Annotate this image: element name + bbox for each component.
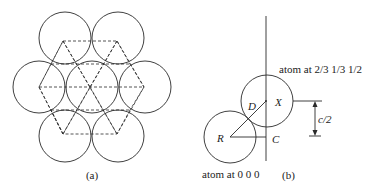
atom-upper-label: atom at 2/3 1/3 1/2: [279, 63, 362, 75]
caption-a: (a): [86, 169, 99, 182]
atom-circle: [39, 12, 91, 64]
arrow-head-up-icon: [313, 101, 318, 107]
point-label-c: C: [272, 133, 280, 145]
figure-a: [13, 12, 171, 162]
arrow-head-down-icon: [313, 130, 318, 136]
atom-lower-label: atom at 0 0 0: [202, 168, 260, 180]
caption-b: (b): [282, 169, 295, 182]
point-label-d: D: [247, 100, 256, 112]
atom-circle: [92, 12, 144, 64]
point-x-dot: [265, 100, 267, 102]
dimension-label: c/2: [318, 113, 332, 125]
atom-circle: [92, 110, 144, 162]
point-label-r: R: [216, 132, 224, 144]
point-label-x: X: [274, 96, 283, 108]
atom-circle: [39, 110, 91, 162]
dashed-hexagon-grid: [39, 41, 144, 134]
diagram-canvas: (a) atom at 2/3 1/3 1/2 D X R C c/2 atom…: [0, 0, 375, 191]
